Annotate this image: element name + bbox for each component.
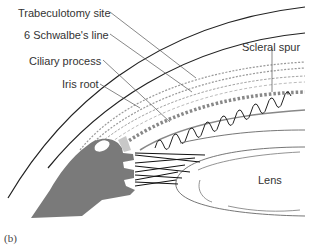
lens-outer bbox=[176, 147, 305, 216]
label-trabeculotomy-site: Trabeculotomy site bbox=[18, 7, 111, 19]
zonular-fibres bbox=[135, 153, 205, 186]
panel-label: (b) bbox=[4, 232, 17, 244]
label-iris-root: Iris root bbox=[62, 78, 99, 90]
trabecular-dotted-line-2 bbox=[82, 68, 305, 154]
lens-inner-top bbox=[198, 152, 300, 170]
ciliary-body-tissue bbox=[31, 139, 135, 218]
label-lens: Lens bbox=[258, 174, 282, 186]
label-scleral-spur: Scleral spur bbox=[242, 41, 300, 53]
lens-outer-top bbox=[180, 130, 305, 143]
lens-inner-bottom bbox=[228, 206, 300, 211]
label-schwalbes-line: 6 Schwalbe's line bbox=[24, 29, 109, 41]
lens-inner-left bbox=[199, 180, 212, 202]
label-ciliary-process: Ciliary process bbox=[29, 55, 101, 67]
scleral-spur-band bbox=[118, 92, 305, 148]
leader-lines bbox=[100, 12, 272, 122]
